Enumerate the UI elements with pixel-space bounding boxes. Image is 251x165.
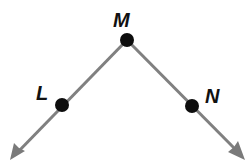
- point-l: [55, 98, 69, 112]
- ray-ml: [10, 40, 127, 160]
- point-n: [185, 99, 199, 113]
- angle-diagram: M L N: [0, 0, 251, 165]
- point-m: [120, 33, 134, 47]
- label-n: N: [205, 85, 220, 107]
- diagram-svg: M L N: [0, 0, 251, 165]
- label-m: M: [113, 9, 131, 31]
- label-l: L: [36, 82, 48, 104]
- ray-mn: [127, 40, 245, 160]
